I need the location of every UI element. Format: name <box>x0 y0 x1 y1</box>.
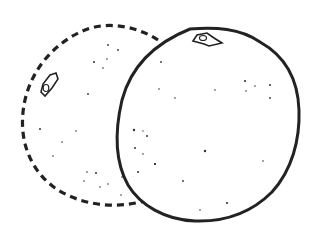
back-orange-stem-icon <box>41 73 58 96</box>
oranges-drawing <box>0 0 313 228</box>
front-orange <box>117 28 299 221</box>
back-orange-dots <box>39 44 123 196</box>
orange-illustration <box>0 0 313 228</box>
